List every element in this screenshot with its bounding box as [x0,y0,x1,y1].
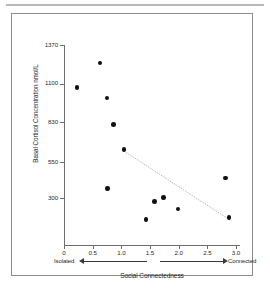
anchor-axis-left-line [83,261,147,262]
scatter-point [227,215,232,220]
x-anchor-label-connected: Connected [228,257,256,265]
y-tick-label: 300 [28,195,58,201]
x-tick-label: 2.5 [197,249,217,256]
x-tick-label: 1.0 [111,249,131,256]
anchor-axis-right-line [160,261,224,262]
top-divider-rule [6,4,264,6]
scatter-point [152,199,157,204]
x-tick-label: 3.0 [226,249,246,256]
scatter-point [144,217,149,222]
x-tick-label: 0.5 [83,249,103,256]
x-anchor-label-isolated: Isolated [54,257,74,265]
x-tick-label: 0 [54,249,74,256]
x-tick-label: 2.0 [169,249,189,256]
scatter-point [105,186,110,191]
scatter-point [161,195,166,200]
figure-page: 30055083011001370 00.51.01.52.02.53.0 Ba… [0,0,270,289]
x-axis-title: Social Connectedness [52,272,252,279]
x-axis-anchor-row: Isolated Connected [32,257,267,267]
scatter-point [75,85,80,90]
regression-trend-line [64,45,236,241]
figure-frame: 30055083011001370 00.51.01.52.02.53.0 Ba… [11,13,253,276]
plot-area [64,45,236,241]
x-tick-label: 1.5 [140,249,160,256]
y-axis-title: Basal Cortisol Concentration nmol/L [32,39,39,189]
x-axis-line [64,245,240,246]
scatter-point [111,122,116,127]
